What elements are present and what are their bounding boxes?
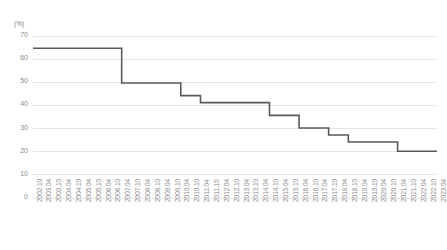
- x-axis-tick-label: 2015.04: [282, 178, 289, 201]
- x-axis-tick-label: 2014.04: [262, 178, 269, 201]
- x-axis-tick-label: 2018.10: [351, 178, 358, 201]
- x-axis-tick-label: 2012.10: [233, 178, 240, 201]
- x-axis-tick-label: 2022.10: [430, 178, 437, 201]
- x-axis-tick-label: 2013.04: [243, 178, 250, 201]
- x-axis-tick-label: 2014.10: [272, 178, 279, 201]
- x-axis-tick-label: 2010.10: [193, 178, 200, 201]
- x-axis-tick-label: 2015.10: [292, 178, 299, 201]
- x-axis-tick-label: 2011.04: [203, 179, 210, 202]
- x-axis-tick-label: 2008.04: [144, 178, 151, 201]
- x-axis-tick-label: 2021.04: [400, 178, 407, 201]
- x-axis-tick-label: 2012.04: [223, 178, 230, 201]
- x-axis-tick-label: 2005.04: [85, 178, 92, 201]
- x-axis-tick-label: 2017.10: [331, 178, 338, 201]
- x-axis-tick-label: 2020.04: [380, 178, 387, 201]
- x-axis-tick-label: 2010.04: [183, 178, 190, 201]
- x-axis-tick-label: 2016.04: [302, 178, 309, 201]
- x-axis-tick-label: 2016.10: [312, 178, 319, 201]
- x-axis-tick-label: 2013.10: [252, 178, 259, 201]
- x-axis-tick-label: 2006.10: [114, 178, 121, 201]
- x-axis-tick-label: 2011.10: [213, 179, 220, 202]
- x-axis-tick-label: 2009.04: [164, 178, 171, 201]
- x-axis-tick-label: 2023.04: [440, 178, 447, 201]
- x-axis-tick-label: 2003.04: [45, 178, 52, 201]
- x-axis-tick-label: 2009.10: [174, 178, 181, 201]
- x-axis-tick-label: 2019.10: [371, 178, 378, 201]
- x-axis-tick-label: 2003.10: [55, 178, 62, 201]
- x-axis-tick-label: 2004.10: [75, 178, 82, 201]
- x-axis-tick-label: 2002.10: [36, 178, 43, 201]
- x-axis-tick-label: 2008.10: [154, 178, 161, 201]
- x-axis-tick-label: 2004.04: [65, 178, 72, 201]
- x-axis-tick-label: 2006.04: [105, 178, 112, 201]
- x-axis-tick-label: 2007.10: [134, 178, 141, 201]
- x-axis-tick-label: 2019.04: [361, 178, 368, 201]
- x-axis-tick-label: 2007.04: [124, 178, 131, 201]
- x-axis-tick-label: 2020.10: [390, 178, 397, 201]
- series-step-line: [33, 48, 437, 151]
- x-axis-tick-label: 2018.04: [341, 178, 348, 201]
- x-axis-tick-label: 2022.04: [420, 178, 427, 201]
- x-axis-tick-label: 2017.04: [321, 178, 328, 201]
- x-axis-tick-label: 2005.10: [95, 178, 102, 201]
- x-axis-tick-label: 2021.10: [410, 178, 417, 201]
